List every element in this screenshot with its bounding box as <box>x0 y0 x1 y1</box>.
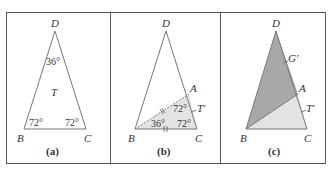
angle-label-base-right: 72° <box>65 117 79 128</box>
vertex-label-A: A <box>298 82 306 94</box>
angle-label-apex: 36° <box>46 56 60 67</box>
panel-a: D B C 36° T 72° 72° (a) <box>17 17 92 158</box>
vertex-label-D: D <box>271 17 280 29</box>
golden-triangle-figure: D B C 36° T 72° 72° (a) D A B C 72° T′ 3… <box>0 0 331 171</box>
region-label-T: T <box>51 86 58 98</box>
region-label-T-prime: T′ <box>306 102 315 114</box>
vertex-label-D: D <box>50 17 59 29</box>
angle-label-C: 72° <box>177 118 191 129</box>
vertex-label-C: C <box>304 132 312 144</box>
region-label-G-prime: G′ <box>288 52 299 64</box>
caption-b: (b) <box>157 145 171 158</box>
vertex-label-D: D <box>161 17 170 29</box>
vertex-label-B: B <box>240 132 247 144</box>
panel-c: D G′ A T′ B C (c) <box>240 17 315 158</box>
vertex-label-B: B <box>17 132 24 144</box>
caption-a: (a) <box>46 145 59 158</box>
region-label-T-prime: T′ <box>197 102 206 114</box>
angle-label-B: 36° <box>151 118 165 129</box>
vertex-label-C: C <box>84 132 92 144</box>
vertex-label-C: C <box>195 132 203 144</box>
angle-label-A: 72° <box>173 103 187 114</box>
vertex-label-B: B <box>128 132 135 144</box>
caption-c: (c) <box>268 145 281 158</box>
triangle-T <box>24 31 86 129</box>
panel-b: D A B C 72° T′ 36° 72° (b) <box>128 17 206 158</box>
vertex-label-A: A <box>189 82 197 94</box>
angle-label-base-left: 72° <box>29 117 43 128</box>
